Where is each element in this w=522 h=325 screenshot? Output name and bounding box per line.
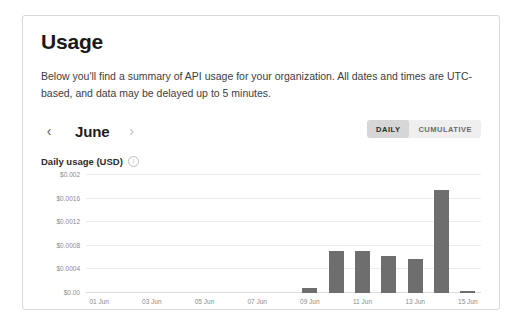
page-title: Usage bbox=[41, 30, 485, 54]
chart-label-row: Daily usage (USD) i bbox=[41, 156, 485, 167]
x-axis-tick-label: 03 Jun bbox=[142, 298, 162, 305]
view-mode-toggle: DAILY CUMULATIVE bbox=[367, 120, 481, 138]
chevron-right-icon[interactable]: › bbox=[124, 124, 140, 138]
y-axis-tick-label: $0.00 bbox=[64, 289, 80, 296]
y-axis-tick-label: $0.0008 bbox=[57, 241, 81, 248]
chart-bar[interactable] bbox=[355, 251, 370, 293]
usage-bar-chart: $0.002$0.0016$0.0012$0.0008$0.0004$0.00 … bbox=[41, 175, 485, 293]
chart-bar[interactable] bbox=[434, 190, 449, 293]
usage-page: Usage Below you'll find a summary of API… bbox=[0, 0, 522, 325]
x-axis-tick-label: 01 Jun bbox=[89, 298, 109, 305]
month-controls-row: ‹ June › DAILY CUMULATIVE bbox=[41, 119, 485, 143]
chart-title: Daily usage (USD) bbox=[41, 156, 123, 167]
chart-bars bbox=[86, 175, 481, 293]
chart-bar[interactable] bbox=[329, 251, 344, 293]
month-label: June bbox=[75, 123, 110, 140]
chart-bar[interactable] bbox=[381, 256, 396, 293]
y-axis-tick-label: $0.0016 bbox=[57, 194, 81, 201]
x-axis-tick-label: 15 Jun bbox=[458, 298, 478, 305]
x-axis-tick-label: 05 Jun bbox=[195, 298, 215, 305]
chart-plot-area: $0.002$0.0016$0.0012$0.0008$0.0004$0.00 bbox=[86, 175, 481, 293]
toggle-option-cumulative[interactable]: CUMULATIVE bbox=[409, 120, 481, 138]
y-axis-tick-label: $0.0012 bbox=[57, 218, 81, 225]
chart-x-axis: 01 Jun03 Jun05 Jun07 Jun09 Jun11 Jun13 J… bbox=[86, 293, 481, 309]
y-axis-tick-label: $0.002 bbox=[60, 171, 80, 178]
x-axis-tick-label: 11 Jun bbox=[353, 298, 372, 305]
toggle-option-daily[interactable]: DAILY bbox=[367, 120, 409, 138]
chart-bar[interactable] bbox=[408, 259, 423, 293]
x-axis-tick-label: 09 Jun bbox=[300, 298, 320, 305]
chevron-left-icon[interactable]: ‹ bbox=[41, 124, 57, 138]
card-content: Usage Below you'll find a summary of API… bbox=[41, 30, 485, 301]
usage-card: Usage Below you'll find a summary of API… bbox=[22, 15, 500, 310]
y-axis-tick-label: $0.0004 bbox=[57, 265, 81, 272]
x-axis-tick-label: 07 Jun bbox=[247, 298, 267, 305]
page-description: Below you'll find a summary of API usage… bbox=[41, 68, 483, 102]
x-axis-tick-label: 13 Jun bbox=[405, 298, 425, 305]
info-icon[interactable]: i bbox=[128, 156, 139, 167]
